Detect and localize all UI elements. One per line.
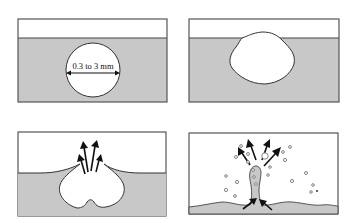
droplet [269, 166, 272, 169]
droplet [234, 195, 237, 198]
droplet [224, 188, 227, 191]
panel-4-jet-drops [189, 133, 338, 214]
droplet [310, 191, 313, 194]
bubble-burst-diagram: 0.3 to 3 mm [0, 0, 354, 223]
droplet [290, 179, 293, 182]
panel-1-submerged-bubble: 0.3 to 3 mm [18, 19, 167, 102]
panel-2-surface-bubble [189, 19, 339, 102]
droplet [255, 183, 258, 186]
droplet [253, 176, 256, 179]
droplet [282, 151, 285, 154]
liquid-region [189, 166, 338, 214]
droplet [235, 156, 238, 159]
droplet [225, 175, 228, 178]
droplet [312, 184, 315, 187]
droplet [235, 180, 238, 183]
droplet [267, 174, 270, 177]
droplet [305, 172, 308, 175]
droplet [240, 145, 243, 148]
droplet [247, 161, 250, 164]
arrow-up-icon [251, 146, 256, 160]
droplet [289, 146, 292, 149]
droplet [252, 169, 255, 172]
droplet [247, 153, 250, 156]
droplet [316, 190, 318, 192]
panel-3-film-rupture [18, 132, 166, 216]
droplet [262, 153, 268, 159]
droplet [283, 158, 286, 161]
diameter-label: 0.3 to 3 mm [72, 61, 113, 71]
